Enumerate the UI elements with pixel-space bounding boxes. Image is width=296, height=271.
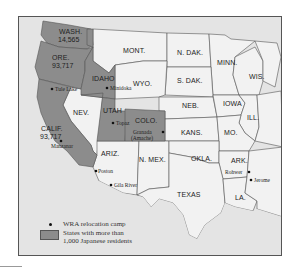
label-ndak: N. DAK. — [177, 49, 203, 56]
camp-dot-jerome — [250, 179, 253, 182]
pop-calif: 93,717 — [40, 133, 62, 140]
label-wis: WIS. — [249, 73, 265, 80]
camp-gila-river: Gila River — [114, 182, 137, 188]
label-utah: UTAH — [103, 107, 122, 114]
camp-jerome: Jerome — [254, 177, 270, 183]
camp-dot-icon — [49, 223, 52, 226]
camp-topaz: Topaz — [116, 120, 130, 126]
label-iowa: IOWA — [223, 100, 242, 107]
label-minn: MINN. — [217, 59, 237, 66]
label-mo: MO. — [224, 129, 238, 136]
camp-dot-gila-river — [110, 184, 113, 187]
legend-camp-label: WRA relocation camp — [63, 220, 126, 228]
label-colo: COLO. — [135, 117, 157, 124]
state-swatch-icon — [40, 230, 59, 240]
label-ill: ILL. — [247, 114, 259, 121]
label-mont: MONT. — [123, 47, 145, 54]
divider — [0, 266, 22, 267]
label-la: LA. — [235, 194, 246, 201]
label-wyo: WYO. — [133, 80, 152, 87]
label-texas: TEXAS — [177, 191, 201, 198]
camp-dot-granada — [162, 131, 165, 134]
camp-poston: Poston — [98, 168, 113, 174]
label-nev: NEV. — [73, 109, 89, 116]
us-west-map: WASH. 14,565 ORE. 93,717 IDAHO CALIF. 93… — [19, 17, 282, 256]
camp-tule-lake: Tule Lake — [55, 86, 78, 92]
label-ark: ARK. — [231, 157, 248, 164]
state-nmex — [137, 141, 169, 195]
label-ariz: ARIZ. — [101, 150, 119, 157]
label-calif: CALIF. — [41, 125, 63, 132]
camp-manzanar: Manzanar — [51, 143, 73, 149]
camp-dot-rohwer — [248, 171, 251, 174]
camp-rohwer: Rohwer — [225, 169, 243, 175]
legend-state-label-2: 1,000 Japanese residents — [63, 237, 132, 245]
camp-dot-topaz — [112, 122, 115, 125]
legend-state-label-1: States with more than — [63, 229, 124, 237]
camp-minidoka: Minidoka — [110, 85, 132, 91]
label-wash: WASH. — [59, 28, 82, 35]
pop-wash: 14,565 — [58, 36, 80, 43]
label-nmex: N. MEX. — [139, 156, 166, 163]
label-neb: NEB. — [182, 102, 199, 109]
label-idaho: IDAHO — [92, 75, 115, 82]
camp-dot-manzanar — [60, 140, 63, 143]
camp-dot-tule-lake — [51, 88, 54, 91]
label-sdak: S. DAK. — [177, 77, 203, 84]
pop-ore: 93,717 — [52, 62, 74, 69]
label-kans: KANS. — [181, 129, 203, 136]
camp-dot-poston — [95, 170, 98, 173]
camp-dot-minidoka — [106, 87, 109, 90]
label-okla: OKLA. — [191, 155, 212, 162]
map-frame: WASH. 14,565 ORE. 93,717 IDAHO CALIF. 93… — [18, 16, 282, 256]
camp-amache: (Amache) — [131, 135, 153, 142]
label-ore: ORE. — [52, 54, 70, 61]
